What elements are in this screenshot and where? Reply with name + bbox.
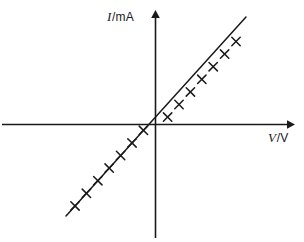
data-markers-negative	[71, 126, 148, 210]
x-axis-arrowhead-icon	[287, 120, 295, 129]
data-marker-cross	[186, 88, 194, 96]
x-axis-label-symbol: V	[268, 130, 277, 145]
data-marker-cross	[220, 50, 228, 58]
data-marker-cross	[71, 202, 79, 210]
data-marker-cross	[82, 189, 90, 197]
data-marker-cross	[116, 151, 124, 159]
data-marker-cross	[209, 62, 217, 70]
x-axis-label-unit: /V	[277, 131, 289, 145]
data-marker-cross	[175, 100, 183, 108]
data-marker-cross	[139, 126, 147, 134]
iv-characteristic-figure: I/mA V/V	[0, 0, 304, 242]
data-marker-cross	[94, 177, 102, 185]
x-axis-label: V/V	[268, 130, 288, 146]
data-marker-cross	[163, 113, 171, 121]
data-marker-cross	[232, 37, 240, 45]
data-marker-cross	[105, 164, 113, 172]
data-marker-cross	[198, 75, 206, 83]
y-axis-label: I/mA	[107, 9, 134, 25]
plot-canvas	[0, 0, 304, 242]
y-axis-label-unit: /mA	[112, 10, 134, 24]
data-marker-cross	[128, 139, 136, 147]
y-axis-arrowhead-icon	[151, 10, 160, 18]
data-markers-positive	[163, 37, 240, 121]
